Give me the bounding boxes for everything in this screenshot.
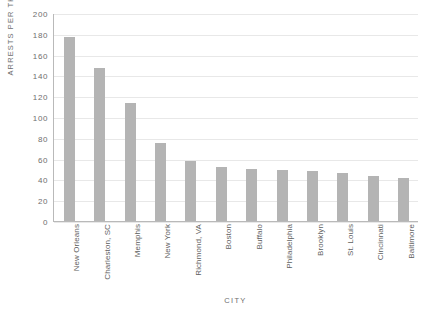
bar — [337, 173, 348, 221]
x-axis-tick-label: Brooklyn — [316, 224, 325, 256]
bar — [64, 37, 75, 221]
y-axis-tick-label: 100 — [6, 114, 48, 123]
x-axis-tick-label: Memphis — [133, 224, 142, 257]
y-axis-tick-label: 160 — [6, 51, 48, 60]
bar — [398, 178, 409, 221]
x-axis-tick-label: Charleston, SC — [103, 224, 112, 280]
y-axis-tick-label: 0 — [6, 218, 48, 227]
y-axis-tick-label: 20 — [6, 197, 48, 206]
y-axis-tick-label: 120 — [6, 93, 48, 102]
bar — [277, 170, 288, 221]
y-axis-tick-labels: 020406080100120140160180200 — [0, 14, 48, 222]
x-axis-tick-label: Cincinnati — [376, 224, 385, 260]
y-axis-tick-label: 40 — [6, 176, 48, 185]
x-axis-tick-label: Richmond, VA — [194, 224, 203, 276]
bar — [246, 169, 257, 221]
bar — [307, 171, 318, 221]
plot-area — [53, 14, 418, 222]
bar-chart: ARRESTS PER THOUSAND 0204060801001201401… — [0, 0, 436, 318]
y-axis-tick-label: 60 — [6, 155, 48, 164]
y-axis-tick-label: 180 — [6, 30, 48, 39]
x-axis-title: CITY — [53, 296, 418, 305]
bar — [185, 161, 196, 221]
x-axis-tick-label: St. Louis — [346, 224, 355, 256]
x-axis-tick-label: New York — [163, 224, 172, 259]
bar — [368, 176, 379, 221]
bar — [216, 167, 227, 221]
y-axis-tick-label: 80 — [6, 134, 48, 143]
bars-layer — [54, 14, 418, 221]
y-axis-tick-label: 200 — [6, 10, 48, 19]
bar — [155, 143, 166, 221]
x-axis-tick-label: Philadelphia — [285, 224, 294, 269]
x-axis-tick-label: New Orleans — [72, 224, 81, 271]
x-axis-tick-label: Buffalo — [255, 224, 264, 249]
bar — [94, 68, 105, 221]
x-axis-tick-label: Boston — [224, 224, 233, 250]
x-axis-tick-labels: New OrleansCharleston, SCMemphisNew York… — [53, 224, 418, 294]
x-axis-tick-label: Baltimore — [407, 224, 416, 259]
y-axis-tick-label: 140 — [6, 72, 48, 81]
bar — [125, 103, 136, 221]
